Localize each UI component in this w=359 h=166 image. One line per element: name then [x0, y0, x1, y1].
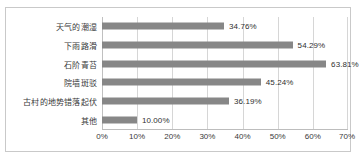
category-label: 院墙斑驳 — [64, 77, 97, 88]
x-tick-label: 30% — [199, 132, 215, 141]
x-tick-label: 20% — [164, 132, 180, 141]
bar[interactable] — [102, 116, 137, 123]
bar-row: 其他 10.00% — [102, 110, 348, 129]
bar[interactable] — [102, 41, 293, 48]
x-tick-label: 0% — [96, 132, 108, 141]
x-axis-line — [102, 129, 348, 130]
bar-value-label: 54.29% — [298, 40, 326, 49]
bar-row: 天气的潮湿 34.76% — [102, 17, 348, 36]
plot-area: 天气的潮湿 34.76% 下雨路滑 54.29% 石阶青苔 63.81% 院墙斑… — [102, 17, 348, 129]
bar[interactable] — [102, 79, 261, 86]
category-label: 其他 — [81, 114, 97, 125]
x-tick-label: 50% — [270, 132, 286, 141]
bar-value-label: 10.00% — [142, 115, 170, 124]
x-axis-tick-labels: 0% 10% 20% 30% 40% 50% 60% 70% — [102, 132, 348, 146]
chart-frame: 天气的潮湿 34.76% 下雨路滑 54.29% 石阶青苔 63.81% 院墙斑… — [5, 7, 351, 152]
bar-row: 院墙斑驳 45.24% — [102, 73, 348, 92]
x-tick-label: 70% — [339, 132, 355, 141]
category-label: 下雨路滑 — [64, 39, 97, 50]
bar[interactable] — [102, 97, 229, 104]
x-tick-label: 40% — [235, 132, 251, 141]
bar-row: 下雨路滑 54.29% — [102, 36, 348, 55]
bar-value-label: 36.19% — [234, 96, 262, 105]
bar-value-label: 63.81% — [331, 59, 359, 68]
bar-value-label: 34.76% — [229, 22, 257, 31]
category-label: 天气的潮湿 — [56, 21, 97, 32]
bar-row: 古村的地势错落起伏 36.19% — [102, 92, 348, 111]
category-label: 石阶青苔 — [64, 58, 97, 69]
category-label: 古村的地势错落起伏 — [23, 95, 97, 106]
bar-row: 石阶青苔 63.81% — [102, 54, 348, 73]
x-tick-label: 60% — [305, 132, 321, 141]
bar[interactable] — [102, 60, 326, 67]
x-tick-label: 10% — [129, 132, 145, 141]
bar-value-label: 45.24% — [266, 78, 294, 87]
bar[interactable] — [102, 23, 224, 30]
